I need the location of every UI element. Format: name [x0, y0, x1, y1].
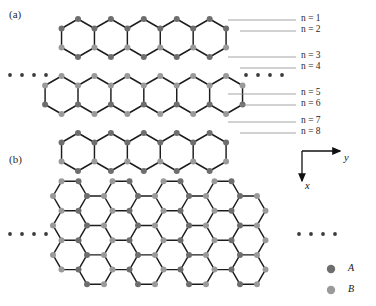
lattice-site-a	[84, 222, 90, 228]
lattice-site-b	[212, 178, 218, 184]
lattice-site-b	[263, 208, 269, 214]
lattice-site-a	[108, 16, 114, 22]
lattice-site-a	[135, 281, 141, 287]
lattice-site-b	[174, 83, 180, 89]
lattice-site-a	[127, 178, 133, 184]
lattice-site-a	[229, 208, 235, 214]
legend-swatches	[327, 265, 335, 294]
lattice-site-b	[207, 83, 213, 89]
ellipsis-left-a-dot	[20, 73, 24, 77]
lattice-site-b	[223, 73, 229, 79]
lattice-site-a	[75, 54, 81, 60]
lattice-site-b	[254, 281, 260, 287]
lattice-site-a	[207, 130, 213, 136]
ellipsis-dots	[8, 73, 337, 236]
lattice-site-a	[141, 130, 147, 136]
lattice-site-b	[50, 222, 56, 228]
ellipsis-left-a-dot	[32, 73, 36, 77]
lattice-site-b	[108, 83, 114, 89]
lattice-site-b	[212, 237, 218, 243]
ellipsis-left-b-dot	[44, 232, 48, 236]
lattice-site-b	[190, 45, 196, 51]
lattice-site-b	[110, 208, 116, 214]
lattice-site-a	[186, 222, 192, 228]
index-leader-lines	[228, 20, 296, 133]
lattice-site-a	[124, 26, 130, 32]
lattice-site-b	[254, 222, 260, 228]
index-label-n5: n = 5	[301, 87, 321, 97]
lattice-site-b	[203, 222, 209, 228]
lattice-site-a	[237, 222, 243, 228]
panel-label-a: (a)	[9, 8, 21, 20]
lattice-site-b	[59, 45, 65, 51]
lattice-site-a	[76, 267, 82, 273]
lattice-site-b	[91, 45, 97, 51]
lattice-site-b	[152, 252, 158, 258]
lattice-site-b	[190, 73, 196, 79]
lattice-site-b	[59, 208, 65, 214]
lattice-site-a	[237, 281, 243, 287]
lattice-site-b	[223, 45, 229, 51]
lattice-site-b	[91, 73, 97, 79]
ellipsis-right-a-dot	[256, 73, 260, 77]
lattice-site-b	[101, 252, 107, 258]
lattice-site-a	[84, 193, 90, 199]
lattice-site-a	[229, 178, 235, 184]
lattice-site-a	[84, 252, 90, 258]
lattice-site-a	[207, 102, 213, 108]
lattice-site-a	[59, 26, 65, 32]
lattice-site-b	[161, 178, 167, 184]
ellipsis-right-b-dot	[321, 232, 325, 236]
lattice-site-a	[207, 16, 213, 22]
lattice-site-b	[263, 267, 269, 273]
lattice-site-b	[101, 193, 107, 199]
lattice-site-a	[174, 102, 180, 108]
lattice-site-a	[229, 267, 235, 273]
lattice-site-b	[59, 178, 65, 184]
lattice-site-a	[186, 252, 192, 258]
ellipsis-right-a-dot	[268, 73, 272, 77]
lattice-site-b	[240, 83, 246, 89]
lattice-site-b	[50, 252, 56, 258]
figure-graphene-nanoribbon-lattices: (a) (b) n = 1 n = 2 n = 3 n = 4 n = 5 n …	[0, 0, 376, 306]
lattice-site-a	[207, 168, 213, 174]
lattice-site-a	[178, 208, 184, 214]
lattice-site-b	[152, 193, 158, 199]
lattice-site-b	[124, 111, 130, 117]
lattice-site-b	[212, 267, 218, 273]
lattice-site-a	[75, 16, 81, 22]
lattice-site-a	[59, 140, 65, 146]
lattice-site-a	[178, 178, 184, 184]
legend-label-b: B	[348, 283, 354, 294]
lattice-site-a	[76, 178, 82, 184]
index-label-n1: n = 1	[301, 13, 321, 23]
index-label-n4: n = 4	[301, 61, 321, 71]
lattice-site-b	[124, 159, 130, 165]
lattice-site-b	[223, 159, 229, 165]
lattice-site-b	[254, 252, 260, 258]
panel-b-lattice	[50, 178, 269, 287]
lattice-site-b	[59, 111, 65, 117]
lattice-site-b	[254, 193, 260, 199]
lattice-site-b	[110, 178, 116, 184]
lattice-site-b	[75, 83, 81, 89]
lattice-site-b	[101, 281, 107, 287]
lattice-site-a	[174, 130, 180, 136]
ellipsis-left-b-dot	[8, 232, 12, 236]
lattice-site-a	[127, 237, 133, 243]
ellipsis-left-b-dot	[32, 232, 36, 236]
lattice-site-b	[152, 222, 158, 228]
lattice-site-a	[76, 237, 82, 243]
lattice-site-a	[174, 16, 180, 22]
lattice-site-a	[223, 140, 229, 146]
lattice-site-b	[157, 45, 163, 51]
axis-label-x: x	[305, 180, 310, 191]
lattice-site-b	[190, 111, 196, 117]
ellipsis-right-b-dot	[297, 232, 301, 236]
lattice-site-b	[124, 73, 130, 79]
ellipsis-left-a-dot	[44, 73, 48, 77]
lattice-site-a	[124, 140, 130, 146]
lattice-site-a	[127, 208, 133, 214]
lattice-site-b	[141, 83, 147, 89]
lattice-site-a	[229, 237, 235, 243]
